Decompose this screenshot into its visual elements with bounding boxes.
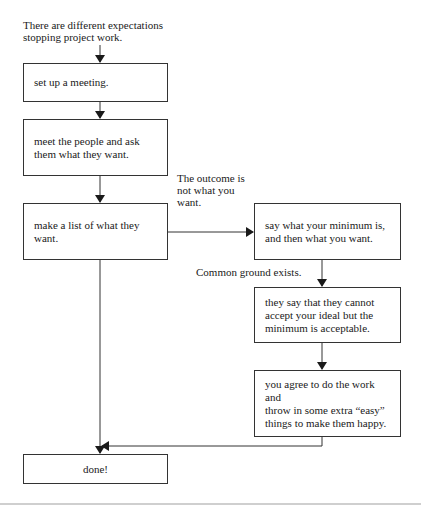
node-done: done!	[23, 454, 168, 484]
node-meet-people: meet the people and ask them what they w…	[23, 119, 168, 176]
node-text: make a list of what they want.	[34, 219, 157, 245]
node-text: you agree to do the work and throw in so…	[265, 378, 390, 430]
node-text: done!	[83, 463, 108, 476]
node-agree-extra: you agree to do the work and throw in so…	[254, 370, 401, 437]
node-text: they say that they cannot accept your id…	[265, 296, 374, 335]
edge-label-common-ground: Common ground exists.	[196, 266, 301, 278]
node-text: set up a meeting.	[34, 76, 109, 89]
flowchart: There are different expectations stoppin…	[0, 0, 421, 505]
node-they-accept-minimum: they say that they cannot accept your id…	[254, 287, 401, 343]
arrow-agree-to-done	[102, 436, 322, 446]
edge-label-outcome: The outcome is not what you want.	[177, 172, 245, 208]
start-label: There are different expectations stoppin…	[23, 19, 163, 43]
node-set-up-meeting: set up a meeting.	[23, 63, 168, 102]
node-text: meet the people and ask them what they w…	[34, 135, 140, 161]
node-text: say what your minimum is, and then what …	[265, 219, 385, 245]
node-say-minimum: say what your minimum is, and then what …	[254, 203, 401, 260]
node-make-list: make a list of what they want.	[23, 203, 168, 260]
